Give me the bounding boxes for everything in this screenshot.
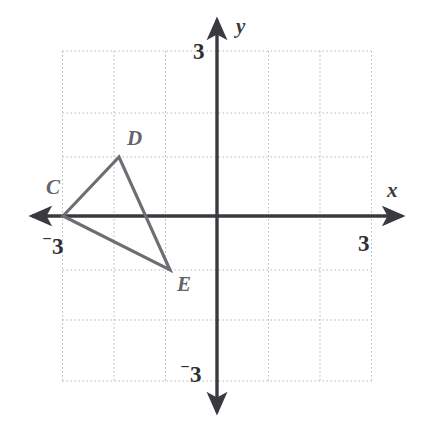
coordinate-plane-figure: x y 3 ⁻3 ⁻3 3 C D E [0,0,423,428]
triangle-CDE [63,157,170,270]
vertex-label-D: D [127,128,142,149]
minus-sign-icon: ⁻ [180,359,190,380]
tick-label-x-neg3-value: 3 [52,234,64,259]
vertex-label-E: E [177,274,191,295]
tick-label-x-neg3: ⁻3 [42,232,64,258]
tick-label-y-neg3-value: 3 [190,362,202,387]
tick-label-y-3: 3 [193,40,205,63]
tick-label-x-3: 3 [358,232,370,255]
vertex-label-C: C [46,177,60,198]
plot-canvas [0,0,423,428]
y-axis-label: y [236,16,245,37]
minus-sign-icon: ⁻ [42,231,52,252]
x-axis-label: x [387,180,398,201]
tick-label-y-neg3: ⁻3 [180,360,202,386]
